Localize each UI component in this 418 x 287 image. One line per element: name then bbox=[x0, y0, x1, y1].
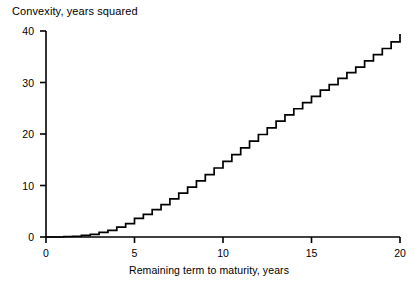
x-axis bbox=[46, 237, 400, 243]
y-tick-label-40: 40 bbox=[8, 25, 34, 37]
x-axis-title: Remaining term to maturity, years bbox=[0, 264, 418, 276]
y-tick-label-20: 20 bbox=[8, 128, 34, 140]
x-tick-label-5: 5 bbox=[120, 247, 150, 259]
y-axis bbox=[40, 31, 46, 237]
x-tick-label-0: 0 bbox=[31, 247, 61, 259]
y-tick-label-30: 30 bbox=[8, 77, 34, 89]
y-tick-label-10: 10 bbox=[8, 180, 34, 192]
chart-figure: Convexity, years squared 40 30 20 10 0 0… bbox=[0, 0, 418, 287]
x-tick-label-15: 15 bbox=[297, 247, 327, 259]
chart-plot-area bbox=[0, 0, 418, 287]
x-tick-label-10: 10 bbox=[208, 247, 238, 259]
y-tick-label-0: 0 bbox=[8, 231, 34, 243]
convexity-step-line bbox=[46, 34, 400, 237]
x-tick-label-20: 20 bbox=[385, 247, 415, 259]
